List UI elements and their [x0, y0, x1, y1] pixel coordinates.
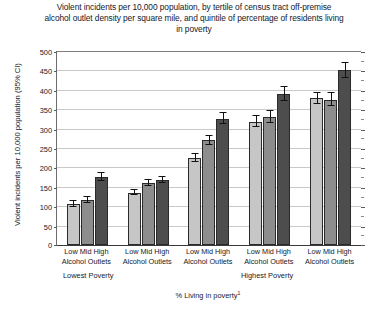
y-axis-tick-label: 0 [48, 241, 52, 250]
error-bar-cap-upper [266, 110, 273, 111]
error-bar-cap-upper [145, 179, 152, 180]
y-axis-minor-tick-mark [361, 177, 364, 178]
x-axis-group-label: Low Mid HighAlcohol Outlets [56, 247, 116, 266]
x-axis-tertile-labels: Low Mid High [178, 247, 238, 257]
bar-wrapper [128, 193, 141, 245]
bar-group [247, 51, 293, 245]
annotation-lowest-poverty: Lowest Poverty [63, 271, 114, 280]
y-axis-minor-tick-mark [361, 216, 364, 217]
error-bar-cap-upper [131, 189, 138, 190]
y-axis-minor-tick-mark [361, 235, 364, 236]
y-axis-tick-label: 350 [40, 106, 52, 115]
bar-low[interactable] [310, 98, 323, 245]
y-axis-tick-label: 500 [40, 48, 52, 57]
error-bar [284, 87, 285, 101]
y-axis-minor-tick-mark [361, 138, 364, 139]
bar-high[interactable] [338, 70, 351, 245]
x-axis-tertile-labels: Low Mid High [239, 247, 299, 257]
bar-wrapper [202, 140, 215, 245]
bar-high[interactable] [277, 94, 290, 245]
bar-high[interactable] [95, 177, 108, 245]
y-axis-tick-label: 450 [40, 67, 52, 76]
y-axis-minor-tick-mark [361, 61, 364, 62]
error-bar-cap-lower [131, 194, 138, 195]
y-axis-minor-tick-mark [361, 100, 364, 101]
error-bar-cap-upper [205, 135, 212, 136]
error-bar-cap-upper [159, 176, 166, 177]
error-bar-cap-lower [219, 123, 226, 124]
bar-mid[interactable] [202, 140, 215, 245]
y-axis-minor-tick-mark [361, 119, 364, 120]
y-axis-tick-label: 250 [40, 145, 52, 154]
x-axis-outlets-label: Alcohol Outlets [56, 257, 116, 267]
bar-mid[interactable] [81, 200, 94, 245]
y-axis-minor-tick-mark [361, 158, 364, 159]
bar-group [186, 51, 232, 245]
y-axis-tick-mark-right [361, 227, 365, 228]
bar-wrapper [277, 94, 290, 245]
x-axis-outlets-label: Alcohol Outlets [300, 257, 360, 267]
bar-mid[interactable] [263, 117, 276, 245]
annotation-highest-poverty: Highest Poverty [241, 271, 293, 280]
y-axis-tick-mark-right [361, 71, 365, 72]
bar-low[interactable] [249, 122, 262, 245]
y-axis-minor-tick-mark [361, 80, 364, 81]
error-bar [345, 63, 346, 79]
error-bar-cap-lower [191, 161, 198, 162]
error-bar-cap-lower [205, 144, 212, 145]
x-axis-outlets-label: Alcohol Outlets [239, 257, 299, 267]
bar-high[interactable] [216, 119, 229, 245]
y-axis-tick-label: 50 [44, 222, 52, 231]
bar-low[interactable] [128, 193, 141, 245]
x-axis-tick-labels: Low Mid HighAlcohol OutletsLow Mid HighA… [56, 247, 360, 266]
y-axis-minor-tick-mark [361, 197, 364, 198]
chart-container: Violent incidents per 10,000 population,… [0, 0, 377, 312]
bar-group [308, 51, 354, 245]
y-axis-tick-label: 150 [40, 183, 52, 192]
error-bar-cap-lower [327, 105, 334, 106]
error-bar-cap-upper [313, 92, 320, 93]
bar-high[interactable] [156, 180, 169, 245]
error-bar-cap-upper [341, 62, 348, 63]
bar-wrapper [249, 122, 262, 245]
y-axis-tick-mark [54, 245, 57, 246]
bar-group [64, 51, 110, 245]
error-bar-cap-lower [145, 185, 152, 186]
error-bar-cap-lower [280, 100, 287, 101]
bar-wrapper [310, 98, 323, 245]
error-bar-cap-upper [98, 172, 105, 173]
y-axis-tick-label: 400 [40, 86, 52, 95]
bar-low[interactable] [188, 158, 201, 245]
x-axis-tertile-labels: Low Mid High [56, 247, 116, 257]
error-bar-cap-lower [159, 182, 166, 183]
bar-groups [57, 51, 361, 245]
chart-title: Violent incidents per 10,000 population,… [44, 2, 344, 36]
bar-mid[interactable] [324, 100, 337, 246]
error-bar-cap-upper [252, 115, 259, 116]
y-axis-tick-mark-right [361, 91, 365, 92]
error-bar-cap-upper [327, 92, 334, 93]
error-bar-cap-lower [70, 206, 77, 207]
x-axis-footnote-marker: 1 [238, 290, 241, 296]
error-bar-cap-lower [341, 77, 348, 78]
x-axis-outlets-label: Alcohol Outlets [178, 257, 238, 267]
y-axis-title: Violent incidents per 10,000 population … [13, 49, 22, 241]
error-bar-cap-lower [266, 122, 273, 123]
y-axis-tick-label: 300 [40, 125, 52, 134]
error-bar-cap-upper [84, 196, 91, 197]
y-axis-tick-mark-right [361, 52, 365, 53]
y-axis-tick-mark-right [361, 245, 365, 246]
y-axis-tick-label: 200 [40, 164, 52, 173]
bar-wrapper [95, 177, 108, 245]
bar-wrapper [142, 183, 155, 245]
bar-wrapper [263, 117, 276, 245]
x-axis-tertile-labels: Low Mid High [117, 247, 177, 257]
bar-wrapper [338, 70, 351, 245]
bar-wrapper [81, 200, 94, 245]
x-axis-title: % Living in poverty1 [56, 290, 360, 300]
bar-mid[interactable] [142, 183, 155, 245]
x-axis-group-label: Low Mid HighAlcohol Outlets [300, 247, 360, 266]
x-axis-title-text: % Living in poverty [176, 291, 238, 300]
error-bar-cap-lower [252, 126, 259, 127]
bar-low[interactable] [67, 204, 80, 245]
